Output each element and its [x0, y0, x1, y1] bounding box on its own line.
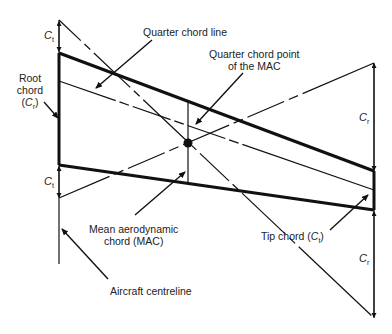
paren-close: ) — [35, 96, 39, 108]
tip-chord-leader — [330, 195, 368, 230]
c-letter: C — [359, 111, 367, 123]
t-subscript: t — [52, 36, 54, 43]
mac-label-line2: chord (MAC) — [89, 235, 178, 247]
c-letter: C — [359, 252, 367, 264]
wing-mac-diagram — [0, 0, 392, 334]
root-chord-label-line1: Root — [16, 72, 44, 84]
c-letter: C — [44, 29, 52, 41]
root-chord-label-line3: (Cr) — [16, 96, 44, 113]
c-symbol: C — [25, 96, 33, 108]
quarter-chord-point-label-line1: Quarter chord point — [209, 48, 299, 60]
tip-chord-label: Tip chord (Ct) — [261, 230, 324, 247]
construction-line-root-to-tip — [59, 63, 374, 198]
paren-close: ) — [320, 230, 324, 242]
root-chord-label-line2: chord — [16, 84, 44, 96]
mac-label: Mean aerodynamic chord (MAC) — [89, 223, 178, 247]
aircraft-centreline-label: Aircraft centreline — [110, 285, 192, 297]
cr-top-symbol: Cr — [359, 111, 369, 125]
ct-top-symbol: Ct — [44, 29, 54, 43]
quarter-chord-line-label: Quarter chord line — [143, 26, 227, 38]
r-subscript: r — [367, 259, 369, 266]
mac-quarter-chord-point — [184, 139, 193, 148]
mac-label-line1: Mean aerodynamic — [89, 223, 178, 235]
c-letter: C — [44, 175, 52, 187]
r-subscript: r — [367, 118, 369, 125]
root-chord-leader — [44, 102, 58, 118]
ct-bottom-symbol: Ct — [44, 175, 54, 189]
quarter-chord-point-label-line2: of the MAC — [209, 60, 299, 72]
quarter-chord-point-label: Quarter chord point of the MAC — [209, 48, 299, 72]
root-chord-label: Root chord (Cr) — [16, 72, 44, 113]
quarter-chord-line — [59, 81, 374, 190]
quarter-chord-point-leader — [196, 73, 243, 124]
tip-chord-text: Tip chord ( — [261, 230, 311, 242]
t-subscript: t — [52, 182, 54, 189]
trailing-edge — [59, 165, 374, 210]
cr-bottom-symbol: Cr — [359, 252, 369, 266]
